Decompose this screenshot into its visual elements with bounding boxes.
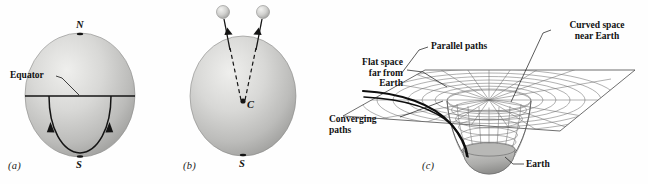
label-equator: Equator (10, 70, 44, 81)
panel-a-sphere-equator: N S Equator (a) (0, 0, 175, 184)
globe-sphere (25, 33, 135, 157)
label-earth: Earth (526, 159, 550, 170)
south-pole-marker (240, 154, 246, 156)
leader-parallel-paths (401, 47, 428, 74)
label-north-pole: N (76, 20, 84, 31)
panel-label-c: (c) (422, 160, 434, 171)
panel-label-a: (a) (8, 160, 21, 171)
panel-a-drawing (0, 0, 175, 184)
falling-apple-left (217, 6, 230, 19)
globe-sphere (190, 36, 296, 156)
panel-b-falling-apples: C S (b) (175, 0, 315, 184)
physics-figure-general-relativity: N S Equator (a) (0, 0, 648, 184)
label-converging-paths: Converging paths (329, 114, 403, 135)
label-flat-space: Flat space far from Earth (315, 57, 403, 89)
label-curved-space: Curved space near Earth (549, 20, 645, 41)
panel-b-drawing (175, 0, 315, 184)
panel-label-b: (b) (183, 160, 196, 171)
panel-c-curved-spacetime: Flat space far from Earth Parallel paths… (315, 0, 648, 184)
center-point-marker (240, 98, 245, 103)
label-center-point: C (247, 100, 254, 111)
south-pole-marker (77, 155, 83, 157)
north-pole-marker (77, 33, 83, 35)
label-parallel-paths: Parallel paths (431, 41, 487, 52)
falling-apple-right (257, 6, 270, 19)
label-south-pole: S (239, 159, 245, 170)
label-south-pole: S (76, 160, 82, 171)
earth-top-rim (463, 143, 515, 156)
